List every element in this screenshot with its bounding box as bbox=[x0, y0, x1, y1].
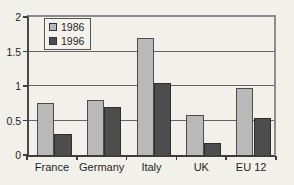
x-tick-mark-3 bbox=[176, 156, 178, 160]
bar-chart: 00.511.52 FranceGermanyItalyUKEU 12 1986… bbox=[0, 0, 294, 185]
y-tick-mark-0.5 bbox=[23, 120, 28, 122]
x-tick-mark-2 bbox=[126, 156, 128, 160]
x-label-uk: UK bbox=[176, 162, 226, 173]
y-tick-mark-2 bbox=[23, 16, 28, 18]
x-tick-mark-0 bbox=[26, 156, 28, 160]
legend: 19861996 bbox=[44, 18, 91, 50]
legend-swatch-1986 bbox=[49, 23, 57, 31]
legend-item-1986: 1986 bbox=[49, 22, 84, 33]
bar-1986-italy bbox=[137, 38, 154, 155]
bar-1996-france bbox=[54, 134, 71, 155]
x-tick-mark-4 bbox=[225, 156, 227, 160]
bar-1986-uk bbox=[186, 115, 203, 155]
y-tick-label-1.5: 1.5 bbox=[0, 46, 21, 57]
legend-item-1996: 1996 bbox=[49, 36, 84, 47]
y-tick-mark-1 bbox=[23, 85, 28, 87]
bar-1996-eu-12 bbox=[254, 118, 271, 155]
x-label-germany: Germany bbox=[77, 162, 127, 173]
y-tick-label-1: 1 bbox=[0, 81, 21, 92]
bar-1986-france bbox=[37, 103, 54, 155]
legend-label-1996: 1996 bbox=[61, 36, 84, 47]
legend-label-1986: 1986 bbox=[61, 22, 84, 33]
y-tick-mark-1.5 bbox=[23, 51, 28, 53]
bar-1986-eu-12 bbox=[236, 88, 253, 155]
bar-1996-italy bbox=[154, 83, 171, 155]
x-label-eu-12: EU 12 bbox=[226, 162, 276, 173]
bar-1996-germany bbox=[104, 107, 121, 155]
y-tick-label-0: 0 bbox=[0, 150, 21, 161]
legend-swatch-1996 bbox=[49, 37, 57, 45]
bar-1996-uk bbox=[204, 143, 221, 155]
x-tick-mark-1 bbox=[76, 156, 78, 160]
x-label-france: France bbox=[27, 162, 77, 173]
x-label-italy: Italy bbox=[127, 162, 177, 173]
y-tick-label-0.5: 0.5 bbox=[0, 115, 21, 126]
y-tick-label-2: 2 bbox=[0, 12, 21, 23]
bar-1986-germany bbox=[87, 100, 104, 155]
x-tick-mark-5 bbox=[275, 156, 277, 160]
